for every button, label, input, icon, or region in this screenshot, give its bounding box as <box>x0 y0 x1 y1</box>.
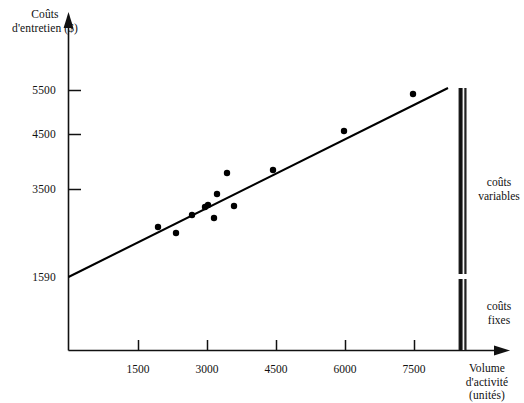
data-point <box>270 167 276 173</box>
data-point <box>224 170 230 176</box>
data-point-group <box>155 91 416 236</box>
legend-bar-fixed-costs <box>459 279 467 350</box>
data-point <box>173 230 179 236</box>
data-point <box>189 212 195 218</box>
legend-bar-variable-costs <box>459 88 467 274</box>
y-axis-arrow-icon <box>64 12 74 28</box>
data-point <box>410 91 416 97</box>
data-point <box>231 203 237 209</box>
data-point <box>155 224 161 230</box>
data-point <box>214 191 220 197</box>
data-point <box>211 215 217 221</box>
data-point <box>341 128 347 134</box>
data-point <box>205 202 211 208</box>
regression-line <box>69 88 449 277</box>
x-axis-arrow-icon <box>494 345 510 355</box>
